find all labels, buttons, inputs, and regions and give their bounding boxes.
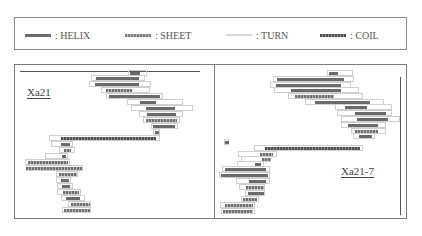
legend-label-turn: : TURN: [256, 30, 288, 41]
helix-segment: [329, 72, 338, 75]
legend-item-sheet: : SHEET: [125, 28, 191, 42]
helix-segment: [95, 83, 139, 86]
sheet-segment: [246, 186, 264, 189]
sheet-segment: [225, 204, 253, 207]
legend-item-coil: : COIL: [320, 28, 379, 42]
coil-segment: [61, 137, 156, 140]
sheet-swatch-icon: [125, 34, 151, 37]
sheet-segment: [59, 173, 77, 176]
legend-item-turn: : TURN: [226, 28, 288, 42]
side-rule-line: [400, 77, 401, 215]
helix-segment: [225, 168, 266, 171]
coil-swatch-icon: [320, 34, 346, 37]
helix-segment: [61, 143, 70, 146]
helix-segment: [291, 89, 341, 92]
helix-segment: [66, 197, 80, 200]
helix-segment: [357, 118, 388, 121]
helix-segment: [277, 78, 344, 81]
sheet-segment: [223, 210, 253, 213]
panel-xa21: Xa21: [14, 64, 215, 219]
legend-label-sheet: : SHEET: [155, 30, 191, 41]
helix-swatch-icon: [25, 34, 51, 37]
helix-segment: [153, 125, 175, 128]
sheet-segment: [26, 167, 82, 170]
helix-segment: [355, 112, 386, 115]
legend-label-coil: : COIL: [350, 30, 379, 41]
coil-segment: [265, 147, 360, 150]
helix-segment: [109, 95, 160, 98]
helix-segment: [248, 192, 264, 195]
panel-title-xa21-7: Xa21-7: [341, 165, 374, 177]
sheet-segment: [28, 161, 68, 164]
sheet-segment: [295, 95, 334, 98]
panel-title-xa21: Xa21: [27, 86, 51, 98]
legend-label-helix: : HELIX: [55, 30, 90, 41]
helix-segment: [61, 179, 69, 182]
sheet-segment: [106, 89, 132, 92]
sheet-segment: [71, 203, 90, 206]
sheet-segment: [64, 149, 71, 152]
helix-segment: [249, 180, 266, 183]
sheet-segment: [146, 119, 177, 122]
panel-xa21-7: Xa21-7: [214, 64, 407, 219]
helix-segment: [348, 124, 378, 127]
legend: : HELIX : SHEET : TURN : COIL: [14, 17, 407, 50]
helix-segment: [147, 113, 176, 116]
helix-segment: [146, 107, 175, 110]
helix-segment: [96, 77, 139, 80]
sheet-segment: [63, 191, 79, 194]
sheet-segment: [243, 198, 257, 201]
turn-swatch-icon: [226, 34, 252, 36]
helix-segment: [62, 155, 66, 158]
top-rule-line: [20, 71, 200, 72]
helix-segment: [155, 131, 159, 134]
helix-segment: [62, 185, 70, 188]
helix-segment: [140, 101, 156, 104]
legend-item-helix: : HELIX: [25, 28, 90, 42]
helix-segment: [359, 135, 372, 138]
helix-segment: [345, 106, 367, 109]
helix-segment: [221, 174, 268, 177]
sheet-segment: [64, 209, 90, 212]
helix-segment: [225, 141, 229, 144]
